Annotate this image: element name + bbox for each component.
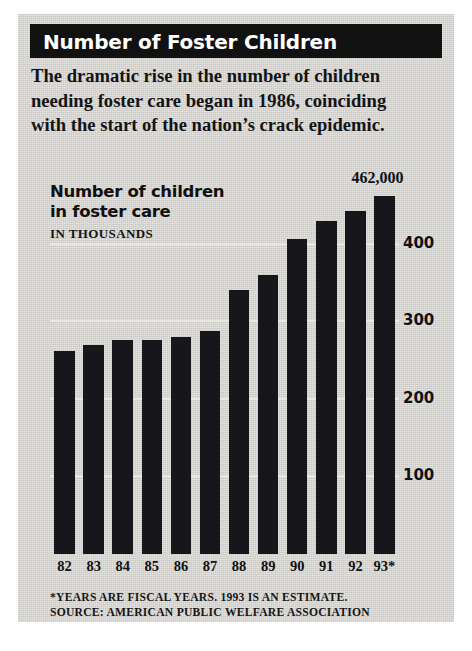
deck-line-2: needing foster care began in 1986, coinc… bbox=[31, 89, 441, 114]
bar-86 bbox=[171, 337, 192, 554]
deck-line-3: with the start of the nation’s crack epi… bbox=[31, 113, 441, 138]
bar-87 bbox=[200, 331, 221, 554]
y-axis-tick-300: 300 bbox=[403, 313, 434, 328]
x-axis-label-85: 85 bbox=[136, 558, 168, 575]
deck-line-1: The dramatic rise in the number of child… bbox=[31, 64, 441, 89]
bar-chart: 100200300400462,000 bbox=[50, 166, 420, 554]
value-callout-93*: 462,000 bbox=[351, 169, 403, 187]
footnote-years: *YEARS ARE FISCAL YEARS. 1993 IS AN ESTI… bbox=[50, 590, 450, 605]
y-axis-tick-100: 100 bbox=[403, 468, 434, 483]
bar-88 bbox=[229, 290, 250, 554]
bar-85 bbox=[142, 340, 163, 554]
deck-text: The dramatic rise in the number of child… bbox=[31, 64, 441, 138]
x-axis-label-83: 83 bbox=[78, 558, 110, 575]
page-title: Number of Foster Children bbox=[43, 30, 337, 54]
bar-91 bbox=[316, 221, 337, 554]
x-axis-label-84: 84 bbox=[107, 558, 139, 575]
footnotes: *YEARS ARE FISCAL YEARS. 1993 IS AN ESTI… bbox=[50, 590, 450, 620]
bar-93* bbox=[374, 196, 395, 555]
x-axis-label-92: 92 bbox=[339, 558, 371, 575]
bar-83 bbox=[83, 345, 104, 554]
infographic-panel: Number of Foster Children The dramatic r… bbox=[18, 14, 454, 622]
x-axis-label-93*: 93* bbox=[368, 558, 400, 575]
title-bar: Number of Foster Children bbox=[30, 24, 442, 58]
bar-89 bbox=[258, 275, 279, 554]
y-axis-tick-200: 200 bbox=[403, 391, 434, 406]
bar-92 bbox=[345, 211, 366, 554]
x-axis-label-90: 90 bbox=[281, 558, 313, 575]
bar-84 bbox=[112, 340, 133, 554]
x-axis-labels: 828384858687888990919293* bbox=[50, 558, 402, 578]
bar-82 bbox=[54, 351, 75, 554]
y-axis-tick-400: 400 bbox=[403, 236, 434, 251]
x-axis-label-88: 88 bbox=[223, 558, 255, 575]
footnote-source: SOURCE: AMERICAN PUBLIC WELFARE ASSOCIAT… bbox=[50, 605, 450, 620]
x-axis-label-91: 91 bbox=[310, 558, 342, 575]
x-axis-label-87: 87 bbox=[194, 558, 226, 575]
x-axis-label-86: 86 bbox=[165, 558, 197, 575]
x-axis-label-82: 82 bbox=[49, 558, 81, 575]
bar-90 bbox=[287, 239, 308, 554]
x-axis-label-89: 89 bbox=[252, 558, 284, 575]
